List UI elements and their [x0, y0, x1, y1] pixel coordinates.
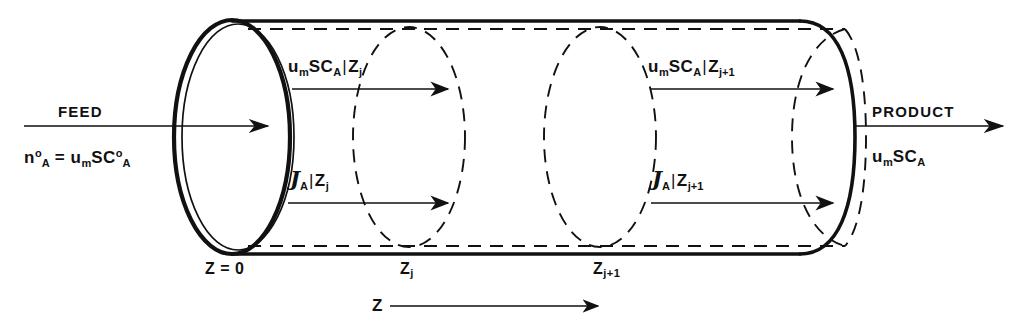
- diagram-canvas: [0, 0, 1013, 326]
- feed-n-subscript: A: [42, 157, 50, 169]
- feed-velocity-subscript: m: [81, 157, 91, 169]
- product-velocity: u: [872, 147, 883, 166]
- position-zj1-label: Zj+1: [593, 261, 620, 279]
- conv-zj-conc-subscript: A: [333, 66, 341, 78]
- feed-area: S: [91, 148, 103, 167]
- product-conc: C: [905, 147, 918, 166]
- position-zj1-subscript: j+1: [603, 267, 620, 279]
- position-zj-label: Zj: [400, 261, 414, 279]
- feed-label: FEED: [58, 104, 103, 119]
- feed-conc-subscript: A: [123, 157, 131, 169]
- feed-molar-flow-expression: noA = umSCoA: [24, 148, 130, 169]
- diff-zj1-eval-bar: |: [670, 172, 677, 189]
- conv-zj-velocity: u: [288, 57, 299, 76]
- feed-conc-superscript: o: [116, 147, 123, 159]
- z-axis-label: Z: [372, 297, 383, 314]
- flow-reactor-diagram: FEED noA = umSCoA umSCA|Zj umSCA|Zj+1 JA…: [0, 0, 1013, 326]
- diff-zj-eval-symbol: Z: [315, 171, 326, 190]
- conv-zj1-area: S: [669, 57, 681, 76]
- conv-zj-eval-subscript: j: [359, 66, 362, 78]
- product-label: PRODUCT: [872, 104, 955, 119]
- diffusive-flux-zj1-label: JA|Zj+1: [652, 168, 703, 192]
- product-area: S: [893, 147, 905, 166]
- conv-zj-eval-symbol: Z: [348, 57, 359, 76]
- diff-zj1-species-subscript: A: [662, 180, 670, 192]
- feed-n-superscript: o: [35, 147, 42, 159]
- inlet-face-ellipse: [174, 20, 294, 254]
- conv-zj1-velocity: u: [648, 57, 659, 76]
- diff-zj-eval-subscript: j: [326, 180, 329, 192]
- conv-zj1-eval-subscript: j+1: [719, 66, 735, 78]
- conv-zj-conc: C: [321, 57, 334, 76]
- diff-zj1-eval-symbol: Z: [677, 171, 688, 190]
- feed-equals: =: [55, 148, 65, 167]
- control-surface-zj1: [544, 27, 656, 247]
- feed-n-symbol: n: [24, 148, 35, 167]
- position-origin-label: Z = 0: [205, 261, 244, 277]
- control-surface-zj: [353, 27, 465, 247]
- conv-zj1-conc-subscript: A: [693, 66, 701, 78]
- diff-zj1-symbol: J: [652, 166, 662, 191]
- conv-zj1-velocity-subscript: m: [659, 66, 669, 78]
- position-zj-subscript: j: [410, 267, 414, 279]
- product-flow-expression: umSCA: [872, 148, 925, 168]
- position-zj-symbol: Z: [400, 260, 410, 277]
- product-velocity-subscript: m: [883, 156, 893, 168]
- diffusive-flux-zj-label: JA|Zj: [290, 168, 329, 192]
- product-conc-subscript: A: [917, 156, 925, 168]
- conv-zj1-eval-symbol: Z: [708, 57, 719, 76]
- convective-flux-zj1-label: umSCA|Zj+1: [648, 58, 735, 78]
- diff-zj1-eval-subscript: j+1: [688, 180, 704, 192]
- diff-zj-symbol: J: [290, 166, 300, 191]
- conv-zj-velocity-subscript: m: [299, 66, 309, 78]
- diff-zj-eval-bar: |: [308, 172, 315, 189]
- conv-zj-area: S: [309, 57, 321, 76]
- feed-conc: C: [103, 148, 116, 167]
- convective-flux-zj-label: umSCA|Zj: [288, 58, 362, 78]
- diff-zj-species-subscript: A: [300, 180, 308, 192]
- conv-zj1-conc: C: [681, 57, 694, 76]
- position-zj1-symbol: Z: [593, 260, 603, 277]
- feed-velocity: u: [70, 148, 81, 167]
